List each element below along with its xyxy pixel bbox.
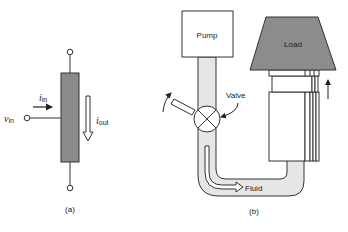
top-terminal	[67, 49, 73, 55]
output-current-arrow	[83, 96, 93, 141]
load-label: Load	[284, 40, 302, 49]
fluid-label: Fluid	[245, 184, 262, 193]
valve-icon	[194, 106, 220, 132]
valve-handle	[171, 99, 195, 115]
piston-rod-layer	[315, 76, 318, 92]
valve-label: Valve	[226, 91, 246, 100]
cylinder-layer	[305, 92, 310, 161]
valve-rotation-arrow	[163, 93, 171, 112]
cylinder-layer	[316, 92, 319, 161]
input-voltage-label: vin	[4, 113, 14, 124]
caption-a: (a)	[65, 205, 75, 214]
piston-collar	[269, 70, 319, 76]
device-body	[61, 73, 79, 162]
bottom-terminal	[67, 185, 73, 191]
figure-a: vin iin iout (a)	[4, 49, 109, 214]
input-terminal	[24, 115, 30, 121]
valve-label-pointer	[221, 103, 238, 117]
output-current-label: iout	[96, 115, 109, 126]
input-current-label: iin	[39, 92, 47, 103]
piston-rod	[272, 76, 312, 92]
figure-b: Pump Valve Fluid Load	[163, 11, 336, 216]
diagram-canvas: vin iin iout (a) Pump Valve Fluid	[0, 0, 348, 232]
cylinder-body	[269, 92, 305, 161]
pump-label: Pump	[197, 31, 218, 40]
caption-b: (b)	[249, 207, 259, 216]
